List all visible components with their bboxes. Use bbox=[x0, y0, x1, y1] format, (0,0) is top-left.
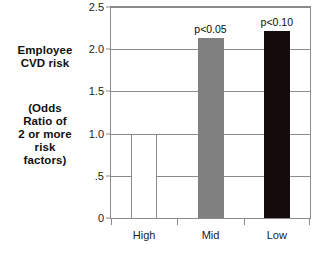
y-axis-caption-primary: Employee CVD risk bbox=[2, 44, 88, 70]
chart-figure: Employee CVD risk (Odds Ratio of 2 or mo… bbox=[0, 0, 319, 257]
caption-line: 2 or more bbox=[2, 128, 88, 141]
bar-annotation-mid: p<0.05 bbox=[194, 23, 226, 35]
y-tick-label: .5 bbox=[95, 170, 104, 182]
y-tick-label: 1.0 bbox=[89, 128, 104, 140]
y-tick-mark bbox=[106, 7, 111, 8]
gridline bbox=[111, 7, 310, 8]
x-tick-label-mid: Mid bbox=[202, 229, 220, 241]
x-tick-mark bbox=[111, 218, 112, 225]
x-tick-mark bbox=[177, 218, 178, 225]
caption-line: CVD risk bbox=[2, 57, 88, 70]
bar-annotation-low: p<0.10 bbox=[261, 16, 293, 28]
y-axis-caption-secondary: (Odds Ratio of 2 or more risk factors) bbox=[2, 102, 88, 167]
y-tick-mark bbox=[106, 91, 111, 92]
x-tick-mark bbox=[309, 218, 310, 225]
caption-line: Ratio of bbox=[2, 115, 88, 128]
gridline bbox=[111, 218, 310, 219]
bar-high bbox=[131, 134, 157, 218]
y-tick-mark bbox=[106, 133, 111, 134]
caption-line: (Odds bbox=[2, 102, 88, 115]
caption-line: risk bbox=[2, 141, 88, 154]
y-tick-mark bbox=[106, 175, 111, 176]
bar-low bbox=[264, 31, 290, 218]
plot-area: 0.51.01.52.02.5 p<0.05p<0.10 HighMidLow bbox=[110, 6, 311, 219]
caption-line: Employee bbox=[2, 44, 88, 57]
y-tick-label: 2.0 bbox=[89, 43, 104, 55]
y-tick-label: 2.5 bbox=[89, 1, 104, 13]
x-tick-label-low: Low bbox=[267, 229, 287, 241]
y-tick-label: 1.5 bbox=[89, 85, 104, 97]
x-tick-label-high: High bbox=[133, 229, 156, 241]
x-tick-mark bbox=[244, 218, 245, 225]
y-tick-label: 0 bbox=[98, 212, 104, 224]
caption-line: factors) bbox=[2, 154, 88, 167]
y-tick-mark bbox=[106, 49, 111, 50]
bar-mid bbox=[198, 38, 224, 218]
